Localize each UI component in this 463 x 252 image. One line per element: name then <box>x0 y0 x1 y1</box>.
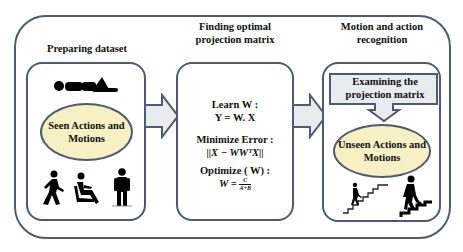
seen-actions-ellipse: Seen Actions and Motions <box>40 103 133 161</box>
minimize-formula: ||X − WWᵀX|| <box>178 146 292 159</box>
fraction-numerator: C <box>239 177 250 185</box>
minimize-label: Minimize Error : <box>178 133 292 146</box>
sitting-person-icon <box>72 172 104 206</box>
stage2-title: Finding optimal projection matrix <box>180 20 290 46</box>
optimize-step: Optimize ( W) : W = C A+B <box>178 164 292 192</box>
standing-person-icon <box>112 168 132 210</box>
arrow-right-icon <box>142 93 180 139</box>
unseen-actions-label: Unseen Actions and Motions <box>337 138 427 164</box>
optimize-formula-lhs: W = <box>219 178 237 189</box>
minimize-step: Minimize Error : ||X − WWᵀX|| <box>178 133 292 159</box>
optimize-label: Optimize ( W) : <box>178 164 292 177</box>
descending-stairs-icon <box>398 175 434 219</box>
learn-formula: Y = W. X <box>178 111 292 124</box>
fraction-denominator: A+B <box>239 185 250 192</box>
optimize-fraction: C A+B <box>239 177 250 192</box>
stage1-title: Preparing dataset <box>28 42 146 55</box>
unseen-actions-ellipse: Unseen Actions and Motions <box>333 124 431 178</box>
seen-actions-label: Seen Actions and Motions <box>48 119 126 145</box>
lying-person-icon <box>52 74 118 94</box>
learn-step: Learn W : Y = W. X <box>178 98 292 124</box>
stage3-title: Motion and action recognition <box>332 20 432 46</box>
walking-person-icon <box>40 170 66 206</box>
learn-label: Learn W : <box>178 98 292 111</box>
climbing-stairs-icon <box>342 182 390 216</box>
callout-label: Examining the projection matrix <box>334 75 436 101</box>
optimize-formula: W = C A+B <box>178 177 292 192</box>
